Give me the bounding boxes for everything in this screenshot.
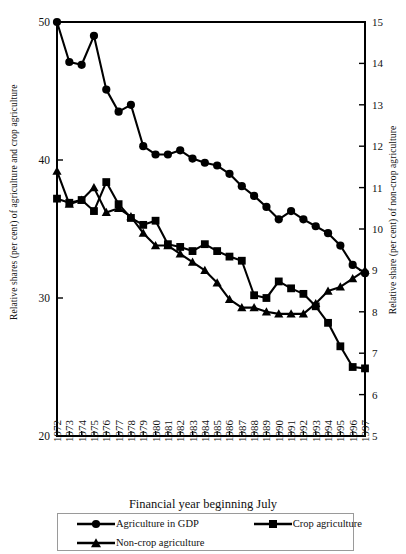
data-point-square	[201, 240, 209, 248]
right-tick-label: 14	[372, 57, 384, 69]
data-point-circle	[164, 150, 172, 158]
right-tick-label: 7	[372, 347, 378, 359]
right-tick-label: 13	[372, 99, 384, 111]
x-tick-label: 1981	[162, 420, 174, 442]
x-tick-label: 1973	[63, 420, 75, 443]
left-tick-label: 50	[39, 16, 51, 28]
data-point-circle	[250, 192, 258, 200]
data-point-square	[189, 247, 197, 255]
right-tick-label: 6	[372, 389, 378, 401]
left-tick-label: 40	[39, 154, 51, 166]
x-tick-label: 1993	[310, 420, 322, 443]
data-point-circle	[176, 146, 184, 154]
left-tick-label: 30	[39, 292, 51, 304]
chart-figure: Relative shares (per cent) of agricultur…	[0, 0, 406, 554]
data-point-square	[324, 319, 332, 327]
data-point-square	[152, 217, 160, 225]
data-point-square	[90, 207, 98, 215]
x-tick-label: 1991	[285, 420, 297, 442]
data-point-circle	[151, 150, 159, 158]
data-point-circle	[275, 215, 283, 223]
data-point-square	[139, 221, 147, 229]
series-non-crop-agriculture	[52, 166, 369, 317]
data-point-circle	[287, 207, 295, 215]
x-tick-label: 1979	[137, 420, 149, 443]
data-point-circle	[90, 32, 98, 40]
series-line	[57, 171, 365, 314]
data-point-circle	[238, 182, 246, 190]
x-tick-label: 1982	[174, 420, 186, 442]
data-point-square	[349, 363, 357, 371]
data-point-circle	[78, 61, 86, 69]
data-point-square	[361, 364, 369, 372]
x-tick-label: 1987	[236, 420, 248, 443]
right-tick-label: 5	[372, 430, 378, 442]
legend-item-crop-agriculture[interactable]: Crop agriculture	[253, 518, 362, 530]
data-point-square	[238, 257, 246, 265]
data-point-triangle	[52, 166, 61, 174]
data-point-circle	[262, 203, 270, 211]
chart-svg: 5040302015141312111098765197219731974197…	[0, 0, 406, 470]
data-point-triangle	[89, 183, 98, 191]
data-point-square	[300, 290, 308, 298]
data-point-circle	[336, 241, 344, 249]
plot-area: 5040302015141312111098765197219731974197…	[0, 0, 406, 470]
x-tick-label: 1995	[334, 420, 346, 443]
x-axis-title: Financial year beginning July	[0, 497, 406, 512]
data-point-square	[53, 195, 61, 203]
x-tick-label: 1980	[150, 420, 162, 443]
data-point-square	[226, 253, 234, 261]
x-tick-label: 1994	[322, 420, 334, 443]
x-tick-label: 1985	[211, 420, 223, 443]
right-tick-label: 12	[372, 140, 383, 152]
left-tick-label: 20	[39, 430, 51, 442]
data-point-square	[263, 294, 271, 302]
legend-row-2: Non-crop agriculture	[58, 533, 353, 552]
legend-marker-circle-icon	[76, 518, 116, 530]
right-tick-label: 15	[372, 16, 384, 28]
right-tick-label: 10	[372, 223, 384, 235]
x-tick-label: 1992	[297, 420, 309, 442]
data-point-circle	[299, 215, 307, 223]
data-point-circle	[127, 101, 135, 109]
data-point-square	[102, 178, 110, 186]
series-agriculture-in-gdp	[53, 18, 369, 277]
data-point-circle	[312, 222, 320, 230]
x-tick-label: 1975	[88, 420, 100, 443]
legend-label: Non-crop agriculture	[116, 537, 204, 548]
data-point-circle	[324, 229, 332, 237]
data-point-circle	[225, 170, 233, 178]
data-point-circle	[102, 86, 110, 94]
data-point-circle	[139, 142, 147, 150]
legend-row-1: Agriculture in GDP Crop agriculture	[58, 514, 353, 533]
right-tick-label: 11	[372, 182, 383, 194]
x-tick-label: 1977	[113, 420, 125, 443]
legend-marker-triangle-icon	[76, 537, 116, 549]
data-point-square	[336, 342, 344, 350]
x-tick-label: 1976	[100, 420, 112, 443]
x-tick-label: 1996	[347, 420, 359, 443]
data-point-circle	[201, 159, 209, 167]
data-point-square	[213, 247, 221, 255]
data-point-square	[287, 284, 295, 292]
legend-item-non-crop-agriculture[interactable]: Non-crop agriculture	[76, 537, 204, 549]
data-point-circle	[213, 161, 221, 169]
x-tick-label: 1974	[76, 420, 88, 443]
data-point-square	[250, 291, 258, 299]
data-point-circle	[188, 155, 196, 163]
x-tick-label: 1990	[273, 420, 285, 443]
data-point-circle	[65, 58, 73, 66]
legend-item-agriculture-in-gdp[interactable]: Agriculture in GDP	[76, 518, 199, 530]
x-tick-label: 1972	[51, 420, 63, 442]
x-tick-label: 1997	[359, 420, 371, 443]
x-tick-label: 1989	[260, 420, 272, 443]
right-tick-label: 8	[372, 306, 378, 318]
data-point-circle	[349, 261, 357, 269]
legend-marker-square-icon	[253, 518, 293, 530]
data-point-square	[275, 278, 283, 286]
x-tick-label: 1983	[187, 420, 199, 443]
x-tick-label: 1986	[223, 420, 235, 443]
chart-legend: Agriculture in GDP Crop agriculture Non-…	[57, 513, 354, 551]
legend-label: Crop agriculture	[293, 518, 362, 529]
right-tick-label: 9	[372, 264, 378, 276]
